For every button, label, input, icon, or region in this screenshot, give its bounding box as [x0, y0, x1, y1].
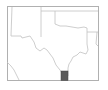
highlighted-county: [61, 71, 68, 81]
locator-map: [0, 0, 108, 90]
map-background: [0, 0, 108, 90]
